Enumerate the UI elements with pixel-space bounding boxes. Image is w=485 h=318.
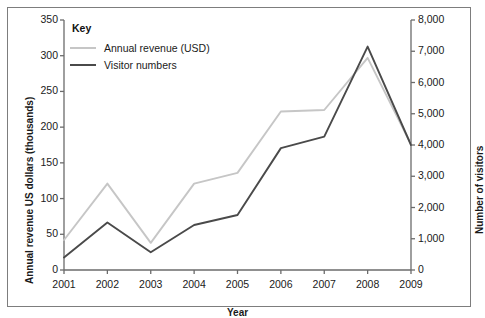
y-axis-right-tick-label: 2,000 [418, 201, 460, 213]
chart-legend: Key Annual revenue (USD)Visitor numbers [70, 22, 220, 74]
y-axis-right-tick-label: 1,000 [418, 232, 460, 244]
y-axis-left-tick-label: 300 [18, 49, 58, 61]
legend-item-label: Annual revenue (USD) [104, 42, 210, 54]
x-axis-title: Year [227, 307, 248, 318]
y-axis-left-tick-label: 250 [18, 84, 58, 96]
y-axis-right-tick-label: 7,000 [418, 44, 460, 56]
legend-line-swatch-icon [70, 64, 96, 66]
x-axis-tick-label: 2005 [216, 278, 260, 290]
y-axis-left-title: Annual revenue US dollars (thousands) [24, 97, 35, 284]
x-axis-tick-label: 2002 [85, 278, 129, 290]
y-axis-right-tick-label: 6,000 [418, 76, 460, 88]
x-axis-tick-label: 2009 [389, 278, 433, 290]
legend-item-label: Visitor numbers [104, 59, 177, 71]
series-line-2 [64, 47, 411, 258]
y-axis-right-tick-label: 8,000 [418, 13, 460, 25]
x-axis-tick-label: 2004 [172, 278, 216, 290]
x-axis-tick-label: 2003 [129, 278, 173, 290]
y-axis-right-tick-label: 3,000 [418, 169, 460, 181]
legend-line-swatch-icon [70, 47, 96, 49]
x-axis-tick-label: 2008 [346, 278, 390, 290]
legend-entries: Annual revenue (USD)Visitor numbers [70, 40, 220, 73]
x-axis-tick-label: 2001 [42, 278, 86, 290]
chart-frame: 050100150200250300350 01,0002,0003,0004,… [7, 7, 471, 307]
y-axis-right-tick-label: 0 [418, 263, 460, 275]
y-axis-right-tick-label: 5,000 [418, 107, 460, 119]
legend-title: Key [70, 22, 220, 34]
x-axis-tick-label: 2007 [302, 278, 346, 290]
y-axis-left-tick-label: 350 [18, 13, 58, 25]
x-axis-tick-label: 2006 [259, 278, 303, 290]
data-series-lines [64, 47, 411, 258]
y-axis-right-title: Number of visitors [474, 146, 485, 234]
legend-item: Annual revenue (USD) [70, 40, 220, 56]
legend-item: Visitor numbers [70, 57, 220, 73]
y-axis-right-tick-label: 4,000 [418, 138, 460, 150]
